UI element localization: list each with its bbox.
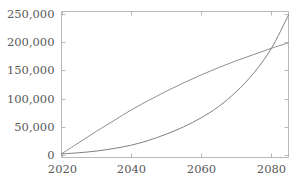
x-tick-label: 2040 bbox=[102, 163, 162, 175]
y-tick-label: 0 bbox=[0, 149, 55, 161]
x-tick-label: 2080 bbox=[242, 163, 295, 175]
line-chart: 050,000100,000150,000200,000250,000 2020… bbox=[0, 0, 294, 186]
y-tick-label: 100,000 bbox=[0, 93, 55, 105]
y-tick-label: 150,000 bbox=[0, 64, 55, 76]
x-tick-label: 2020 bbox=[33, 163, 93, 175]
y-tick-label: 50,000 bbox=[0, 121, 55, 133]
y-tick-label: 250,000 bbox=[0, 8, 55, 20]
x-tick-label: 2060 bbox=[172, 163, 232, 175]
y-tick-label: 200,000 bbox=[0, 36, 55, 48]
